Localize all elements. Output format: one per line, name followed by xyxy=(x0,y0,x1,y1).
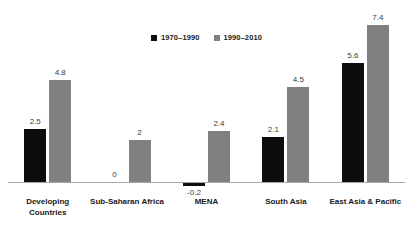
category-label: South Asia xyxy=(246,196,325,207)
plot-area: 2.54.802-0.22.42.14.55.67.4 xyxy=(8,10,405,182)
bar[interactable] xyxy=(367,25,389,182)
bar-group: 2.54.8 xyxy=(8,10,87,182)
bar[interactable] xyxy=(129,140,151,182)
bar-slot: 4.8 xyxy=(49,10,71,182)
bar-group: -0.22.4 xyxy=(167,10,246,182)
bar-value-label: 0 xyxy=(112,170,116,179)
bar-group-bars: 2.14.5 xyxy=(246,10,325,182)
bar-group-bars: 02 xyxy=(87,10,166,182)
bar-value-label: 4.5 xyxy=(293,75,304,84)
category-axis: Developing CountriesSub-Saharan AfricaME… xyxy=(8,196,405,230)
bar[interactable] xyxy=(262,137,284,182)
bar[interactable] xyxy=(49,80,71,182)
bar-slot: 5.6 xyxy=(342,10,364,182)
bar[interactable] xyxy=(24,129,46,182)
bar-group: 5.67.4 xyxy=(326,10,405,182)
bar-slot: 2 xyxy=(129,10,151,182)
bar-value-label: 7.4 xyxy=(372,13,383,22)
bar-group: 02 xyxy=(87,10,166,182)
bar-slot: 2.4 xyxy=(208,10,230,182)
bar-slot: 2.1 xyxy=(262,10,284,182)
bar-group-bars: 5.67.4 xyxy=(326,10,405,182)
bar-slot: 7.4 xyxy=(367,10,389,182)
bar-slot: 2.5 xyxy=(24,10,46,182)
category-label: Developing Countries xyxy=(8,196,87,218)
bar-group-bars: -0.22.4 xyxy=(167,10,246,182)
category-label: East Asia & Pacific xyxy=(326,196,405,207)
bar-slot: -0.2 xyxy=(183,10,205,182)
bar[interactable] xyxy=(342,63,364,182)
bar-group-bars: 2.54.8 xyxy=(8,10,87,182)
bar-value-label: 2.4 xyxy=(213,119,224,128)
category-label: Sub-Saharan Africa xyxy=(87,196,166,207)
bar[interactable] xyxy=(287,87,309,182)
bar-chart: 1970–1990 1990–2010 2.54.802-0.22.42.14.… xyxy=(0,0,413,235)
category-label: MENA xyxy=(167,196,246,207)
zero-axis-line xyxy=(8,182,405,183)
bar-value-label: 2 xyxy=(137,128,141,137)
bar-value-label: 2.5 xyxy=(30,117,41,126)
bar-value-label: 4.8 xyxy=(55,68,66,77)
bar-slot: 0 xyxy=(104,10,126,182)
bar-value-label: 5.6 xyxy=(347,51,358,60)
bar-value-label: 2.1 xyxy=(268,125,279,134)
bar-group: 2.14.5 xyxy=(246,10,325,182)
bar[interactable] xyxy=(208,131,230,182)
bar-slot: 4.5 xyxy=(287,10,309,182)
